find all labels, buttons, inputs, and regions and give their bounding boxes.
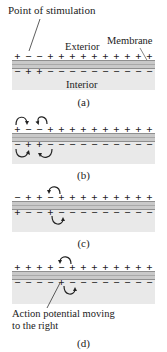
interior-current-arrow-c — [12, 214, 72, 228]
action-potential-label-line2: to the right — [12, 321, 58, 332]
caption-c: (c) — [0, 237, 167, 249]
action-potential-label: Action potential moving — [12, 309, 115, 320]
caption-b: (b) — [0, 169, 167, 181]
caption-a: (a) — [0, 96, 167, 108]
exterior-current-arrow-d — [12, 254, 92, 268]
interior-current-arrows-b — [12, 147, 62, 161]
caption-d: (d) — [0, 337, 167, 349]
interior-charges-a: −++−−−−−−−−−− — [12, 66, 155, 77]
exterior-current-arrow-c — [12, 184, 72, 198]
exterior-current-arrows-b — [12, 114, 62, 128]
interior-label: Interior — [66, 80, 98, 91]
